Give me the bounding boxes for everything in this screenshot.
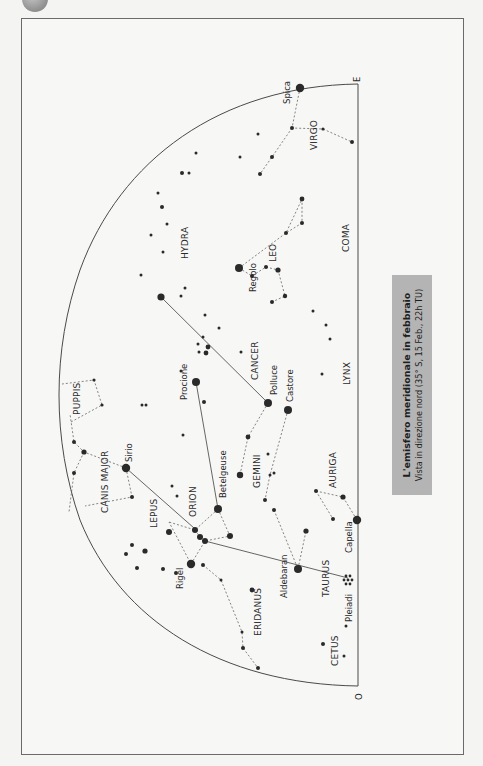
guide-line-sirio-orion bbox=[126, 468, 194, 528]
sky-arc bbox=[59, 84, 358, 686]
star-procione bbox=[192, 378, 200, 386]
label-west: O bbox=[354, 693, 364, 700]
label-cetus: CETUS bbox=[330, 635, 340, 666]
caption-title: L'emisfero meridionale in febbraio bbox=[401, 293, 412, 478]
label-capella: Capella bbox=[344, 521, 354, 553]
label-orion: ORION bbox=[188, 486, 198, 517]
label-spica: Spica bbox=[282, 81, 292, 104]
label-hydra: HYDRA bbox=[180, 226, 190, 259]
caption-subtitle: Vista in direzione nord (35° S, 15 Feb.,… bbox=[414, 289, 424, 482]
constellation-labels: VIRGO COMA LEO HYDRA CANCER LYNX PUPPIS … bbox=[72, 120, 352, 666]
label-eridanus: ERIDANUS bbox=[253, 588, 263, 636]
label-betelgeuse: Betelgeuse bbox=[218, 450, 228, 498]
label-canis-major: CANIS MAJOR bbox=[100, 450, 110, 513]
label-regolo: Regolo bbox=[248, 263, 258, 292]
star-rigel bbox=[187, 560, 195, 568]
star-aldebaran bbox=[294, 565, 302, 573]
label-puppis: PUPPIS bbox=[72, 382, 82, 415]
label-leo: LEO bbox=[268, 244, 278, 262]
label-sirio: Sirio bbox=[124, 443, 134, 462]
label-polluce: Polluce bbox=[269, 365, 279, 395]
label-aldebaran: Aldebaran bbox=[279, 555, 289, 599]
star-cancer-bright bbox=[157, 293, 164, 300]
label-coma: COMA bbox=[341, 223, 351, 252]
star-capella bbox=[353, 516, 361, 524]
label-castore: Castore bbox=[285, 369, 295, 402]
label-virgo: VIRGO bbox=[309, 120, 319, 150]
label-cancer: CANCER bbox=[250, 341, 260, 380]
constellation-lines bbox=[62, 88, 357, 668]
star-regolo bbox=[235, 264, 243, 272]
guide-line-procione-betelgeuse bbox=[196, 382, 218, 509]
guide-lines bbox=[126, 297, 348, 578]
label-taurus: TAURUS bbox=[321, 560, 331, 598]
label-east: E bbox=[352, 77, 362, 82]
star-castore bbox=[284, 406, 292, 414]
star-polluce bbox=[264, 399, 272, 407]
horizon bbox=[59, 84, 358, 686]
star-pleiadi bbox=[343, 575, 354, 586]
label-lynx: LYNX bbox=[342, 362, 352, 385]
label-procione: Procione bbox=[179, 364, 189, 400]
star-labels: Spica Regolo Polluce Castore Procione Si… bbox=[124, 81, 354, 622]
label-lepus: LEPUS bbox=[149, 498, 159, 528]
label-auriga: AURIGA bbox=[328, 451, 338, 488]
caption-box: L'emisfero meridionale in febbraio Vista… bbox=[392, 275, 432, 495]
label-rigel: Rigel bbox=[175, 568, 185, 589]
star-betelgeuse bbox=[214, 505, 222, 513]
star-sirio bbox=[122, 464, 130, 472]
label-pleiadi: Pleiadi bbox=[344, 594, 354, 622]
star-spica bbox=[296, 84, 304, 92]
label-gemini: GEMINI bbox=[252, 454, 262, 488]
